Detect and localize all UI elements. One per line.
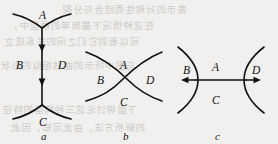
panel-c-arrowhead-left xyxy=(181,77,189,83)
panel-a-arrowhead-down-lower xyxy=(39,79,46,87)
panel-a-label-c: C xyxy=(39,117,47,129)
panel-a-label-a: A xyxy=(39,10,46,22)
panel-b-label-b: B xyxy=(97,75,104,87)
panel-c-caption: c xyxy=(215,131,220,142)
panel-b-label-a: A xyxy=(120,60,127,72)
panel-c-label-c: C xyxy=(212,95,220,107)
panel-c-arrowhead-right xyxy=(254,77,262,83)
panel-a-label-b: B xyxy=(16,60,23,72)
panel-c-label-d: D xyxy=(252,65,260,77)
panel-a-label-d: D xyxy=(58,60,66,72)
figure-container: 表示的对称性而结合与分裂 在这种情况下最简单的模型中， 可以看到它们之间的关系成… xyxy=(0,0,278,144)
panel-c-graphics xyxy=(178,47,264,113)
panel-a-arrowhead-down-upper xyxy=(39,45,46,53)
panel-c-label-a: A xyxy=(212,62,219,74)
panel-a-branch-upper-left xyxy=(13,14,42,28)
panel-a-branch-upper-right xyxy=(42,14,71,28)
panel-a-caption: a xyxy=(41,131,47,142)
panel-c-label-b: B xyxy=(183,65,190,77)
panel-b-label-d: D xyxy=(146,75,154,87)
panel-b-label-c: C xyxy=(120,97,128,109)
panel-b-caption: b xyxy=(123,131,129,142)
panel-a-branch-lower-left xyxy=(13,105,42,119)
